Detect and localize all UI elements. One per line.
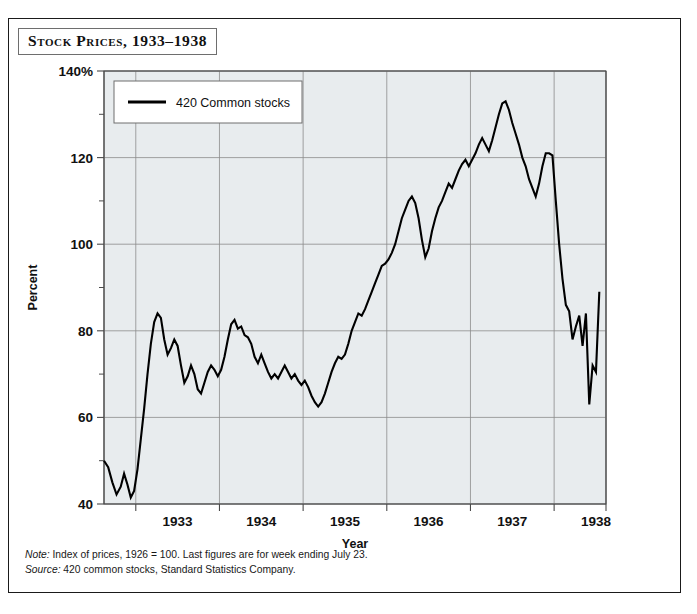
plot-background-layer xyxy=(104,71,606,504)
x-tick-label: 1934 xyxy=(246,514,277,529)
y-tick-label: 120 xyxy=(70,151,93,166)
note-label: Note: xyxy=(25,549,50,560)
note-line-source: Source: 420 common stocks, Standard Stat… xyxy=(25,562,665,577)
figure-container: Stock Prices, 1933–1938 406080100120140%… xyxy=(8,18,681,593)
y-tick-label: 80 xyxy=(78,324,93,339)
note-text: Index of prices, 1926 = 100. Last figure… xyxy=(50,549,368,560)
chart-legend: 420 Common stocks xyxy=(114,81,302,123)
y-tick-label: 100 xyxy=(70,237,93,252)
y-tick-label: 140% xyxy=(58,64,93,79)
figure-notes: Note: Index of prices, 1926 = 100. Last … xyxy=(25,547,665,577)
legend-entry-label: 420 Common stocks xyxy=(176,96,290,110)
y-tick-label: 40 xyxy=(78,497,93,512)
x-tick-label: 1933 xyxy=(163,514,194,529)
stock-prices-line-chart: 406080100120140%193319341935193619371938… xyxy=(9,19,682,594)
x-tick-label: 1935 xyxy=(330,514,361,529)
source-label: Source: xyxy=(25,564,61,575)
x-tick-label: 1936 xyxy=(414,514,445,529)
y-tick-label: 60 xyxy=(78,410,93,425)
plot-area: 406080100120140%193319341935193619371938… xyxy=(9,19,682,594)
x-tick-label: 1938 xyxy=(581,514,612,529)
plot-background xyxy=(104,71,606,504)
x-tick-label: 1937 xyxy=(497,514,527,529)
note-line-note: Note: Index of prices, 1926 = 100. Last … xyxy=(25,547,665,562)
y-axis-title: Percent xyxy=(26,264,40,311)
source-text: 420 common stocks, Standard Statistics C… xyxy=(61,564,296,575)
